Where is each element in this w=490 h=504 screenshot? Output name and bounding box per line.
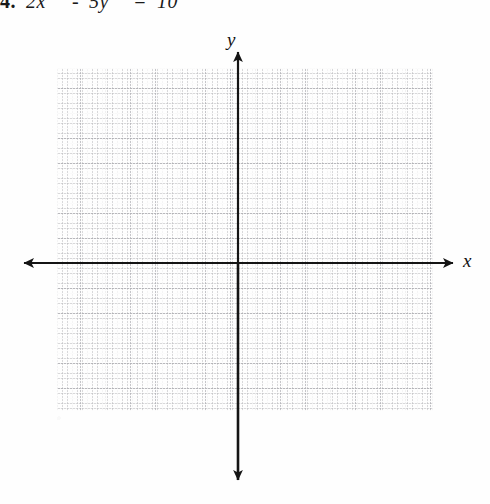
y-axis-label: y <box>227 30 235 49</box>
graph-grid <box>57 68 433 411</box>
problem-number: 4. <box>0 0 16 12</box>
problem-term-2: 5y <box>89 0 109 12</box>
problem-term-1: 2x <box>26 0 46 12</box>
problem-value: 10 <box>157 0 178 12</box>
problem-equals: = <box>133 0 147 12</box>
problem-statement: 4.2x-5y=10 <box>0 0 300 13</box>
problem-operator: - <box>72 0 79 12</box>
x-axis-label: x <box>463 251 471 270</box>
worksheet-page: 4.2x-5y=10 y x <box>0 0 490 504</box>
grid-major-lines <box>57 68 433 411</box>
